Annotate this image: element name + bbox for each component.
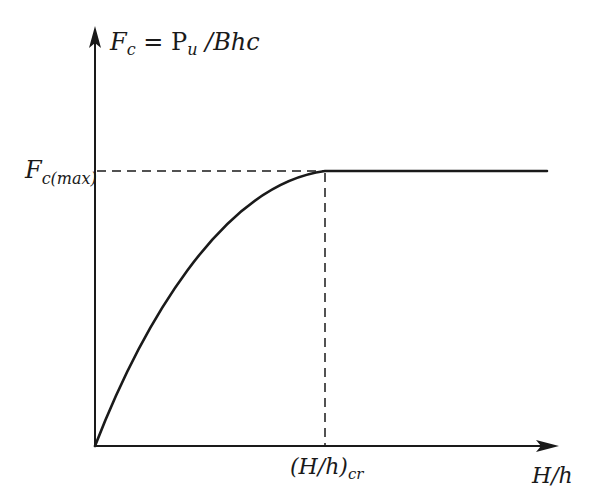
fcmax-label: Fc(max) — [24, 156, 97, 188]
y-axis-label: Fc = Pu /Bhc — [109, 28, 260, 59]
x-axis-label: H/h — [531, 463, 573, 488]
fc-curve — [95, 171, 547, 446]
critical-ratio-label: (H/h)cr — [290, 454, 364, 483]
chart: Fc = Pu /Bhc Fc(max) (H/h)cr H/h — [0, 0, 593, 499]
